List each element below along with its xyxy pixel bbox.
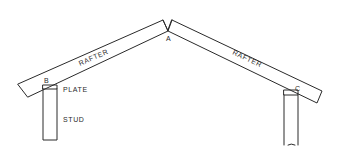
right-wall: [284, 90, 298, 145]
right-stud: [284, 95, 298, 145]
right-rafter-label: RAFTER: [232, 49, 264, 69]
left-stud: [43, 89, 57, 140]
apex-notch: [163, 20, 172, 31]
left-wall: PLATE STUD: [43, 85, 88, 140]
roof-framing-diagram: RAFTER RAFTER PLATE STUD A B C: [0, 0, 345, 150]
stud-label: STUD: [63, 116, 84, 123]
point-a-label: A: [166, 35, 171, 42]
plate-label: PLATE: [63, 86, 88, 93]
right-stud-break: [288, 144, 295, 145]
point-b-label: B: [44, 77, 49, 84]
left-rafter: RAFTER: [18, 20, 168, 97]
point-c-label: C: [295, 85, 300, 92]
